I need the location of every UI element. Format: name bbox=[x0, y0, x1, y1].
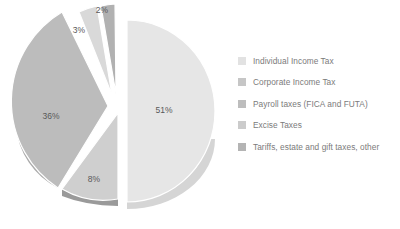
legend-label: Corporate Income Tax bbox=[253, 77, 335, 87]
legend-swatch-icon bbox=[238, 143, 246, 151]
legend-label: Individual Income Tax bbox=[253, 56, 334, 66]
legend-label: Excise Taxes bbox=[253, 120, 302, 130]
legend-label: Tariffs, estate and gift taxes, other bbox=[253, 142, 379, 152]
legend-item-payroll-taxes[interactable]: Payroll taxes (FICA and FUTA) bbox=[238, 93, 400, 115]
chart-legend: Individual Income Tax Corporate Income T… bbox=[238, 50, 400, 158]
legend-item-excise-taxes[interactable]: Excise Taxes bbox=[238, 115, 400, 137]
slice-label-tariffs: 2% bbox=[96, 5, 109, 15]
legend-item-tariffs-estate-gift[interactable]: Tariffs, estate and gift taxes, other bbox=[238, 136, 400, 158]
legend-label: Payroll taxes (FICA and FUTA) bbox=[253, 99, 368, 109]
pie-svg: 51% 36% 8% 3% 2% bbox=[0, 0, 240, 229]
pie-plot-area: 51% 36% 8% 3% 2% bbox=[0, 0, 240, 229]
legend-item-corporate-income-tax[interactable]: Corporate Income Tax bbox=[238, 72, 400, 94]
pie-chart: 51% 36% 8% 3% 2% Individual Income Tax C… bbox=[0, 0, 400, 229]
legend-swatch-icon bbox=[238, 57, 246, 65]
slice-label-individual: 51% bbox=[155, 105, 172, 115]
legend-swatch-icon bbox=[238, 121, 246, 129]
legend-swatch-icon bbox=[238, 78, 246, 86]
slice-label-payroll: 8% bbox=[88, 174, 101, 184]
slice-label-excise: 3% bbox=[73, 25, 86, 35]
slice-label-corporate: 36% bbox=[42, 111, 59, 121]
legend-item-individual-income-tax[interactable]: Individual Income Tax bbox=[238, 50, 400, 72]
legend-swatch-icon bbox=[238, 100, 246, 108]
